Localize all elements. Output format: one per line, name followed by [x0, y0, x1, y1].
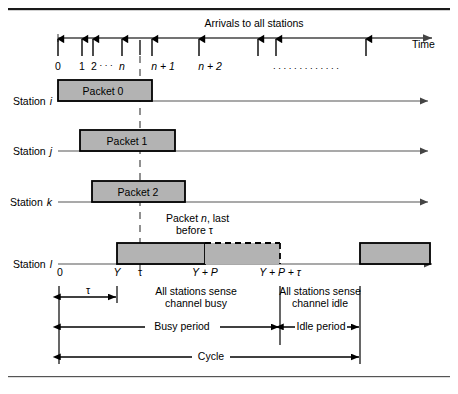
arrival-label-n-plus-1: n + 1	[151, 60, 175, 72]
timeline-tick-label-Y: Y	[113, 266, 121, 278]
arrivals-title: Arrivals to all stations	[204, 17, 303, 29]
station-k-label-prefix: Station	[10, 196, 43, 208]
packet-1-label: Packet 1	[107, 135, 148, 147]
station-i-label-var: i	[50, 95, 53, 107]
station-l-label: Stationl	[13, 258, 53, 270]
busy-sense-caption-line-2: channel busy	[165, 297, 228, 309]
arrival-ellipsis-long: . . . . . . . . . . . . .	[273, 60, 339, 71]
arrival-ellipsis-small: . . .	[99, 57, 112, 68]
station-l-label-var: l	[50, 258, 53, 270]
tau-measure-label: τ	[86, 284, 91, 296]
packet-0-label: Packet 0	[83, 85, 124, 97]
station-l-next-busy-block	[360, 243, 430, 264]
station-i-label: Stationi	[13, 95, 53, 107]
idle-period-label: Idle period	[296, 320, 345, 332]
busy-sense-caption-line-1: All stations sense	[155, 285, 237, 297]
arrival-label-n-plus-2: n + 2	[198, 60, 222, 72]
busy-period-label: Busy period	[154, 320, 210, 332]
station-j-label: Stationj	[13, 145, 53, 157]
timeline-tick-label-Y-plus-P-plus-tau: Y + P + τ	[259, 266, 301, 278]
timeline-tick-label-Y-plus-P: Y + P	[192, 266, 218, 278]
packet-2-label: Packet 2	[118, 186, 159, 198]
arrival-label-2: 2	[91, 60, 97, 72]
arrival-label-1: 1	[79, 60, 85, 72]
figure-canvas: Arrivals to all stations Time	[0, 0, 458, 394]
bottom-rule	[8, 376, 450, 377]
annotation-line-2: before τ	[176, 224, 214, 236]
arrival-label-0: 0	[55, 60, 61, 72]
station-j-label-var: j	[48, 145, 53, 157]
timeline-tick-label-0: 0	[57, 266, 63, 278]
station-l-propagation-block	[205, 243, 280, 264]
arrival-time-axis	[58, 34, 432, 42]
idle-sense-caption-line-1: All stations sense	[279, 285, 361, 297]
station-k-label: Stationk	[10, 196, 53, 208]
idle-sense-caption-line-2: channel idle	[292, 297, 348, 309]
station-l-label-prefix: Station	[13, 258, 46, 270]
station-k-label-var: k	[47, 196, 53, 208]
arrival-label-n: n	[119, 60, 125, 72]
timeline-tick-label-tau: τ	[138, 266, 143, 278]
top-rule	[8, 8, 450, 10]
station-l-transmission-block	[117, 243, 205, 264]
annotation-line-1: Packet n, last	[166, 212, 229, 224]
station-i-label-prefix: Station	[13, 95, 46, 107]
time-axis-label: Time	[412, 38, 435, 50]
cycle-label: Cycle	[198, 350, 224, 362]
station-j-label-prefix: Station	[13, 145, 46, 157]
